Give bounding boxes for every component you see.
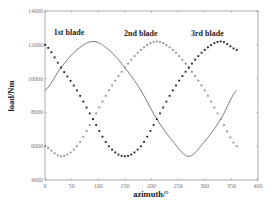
data-point: [166, 101, 168, 103]
data-point: [229, 137, 231, 139]
data-point: [130, 59, 132, 61]
data-point: [47, 47, 49, 49]
data-point: [146, 44, 148, 46]
data-point: [108, 90, 110, 92]
data-point: [162, 107, 164, 109]
data-point: [229, 45, 231, 47]
data-point: [194, 59, 196, 61]
data-point: [105, 95, 107, 97]
data-point: [92, 118, 94, 120]
data-point: [197, 55, 199, 57]
data-point: [54, 56, 56, 58]
data-point: [111, 85, 113, 87]
data-point: [137, 149, 139, 151]
data-point: [166, 44, 168, 46]
data-point: [76, 90, 78, 92]
series-dots-3: [44, 41, 238, 158]
data-point: [217, 41, 219, 43]
data-point: [134, 152, 136, 154]
x-tick-label: 400: [254, 183, 263, 189]
data-point: [204, 49, 206, 51]
data-point: [60, 67, 62, 69]
data-point: [201, 52, 203, 54]
data-point: [70, 152, 72, 154]
y-tick-label: 8000: [31, 109, 43, 115]
data-point: [86, 107, 88, 109]
annotation-label: 1st blade: [54, 28, 85, 37]
x-tick-label: 250: [174, 183, 183, 189]
x-tick-label: 100: [94, 183, 103, 189]
x-tick-label: 350: [227, 183, 236, 189]
data-point: [194, 75, 196, 77]
data-point: [121, 71, 123, 73]
data-point: [95, 113, 97, 115]
data-point: [172, 49, 174, 51]
data-point: [76, 145, 78, 147]
data-point: [181, 59, 183, 61]
data-point: [210, 44, 212, 46]
data-point: [105, 141, 107, 143]
data-point: [89, 113, 91, 115]
data-point: [127, 155, 129, 157]
data-point: [213, 42, 215, 44]
data-point: [47, 147, 49, 149]
x-tick-label: 0: [44, 183, 47, 189]
data-point: [178, 80, 180, 82]
data-point: [102, 101, 104, 103]
annotation-label: 2nd blade: [124, 29, 158, 38]
data-point: [66, 154, 68, 156]
data-point: [159, 113, 161, 115]
x-axis-title: azimuth/°: [133, 189, 169, 199]
data-point: [233, 48, 235, 50]
data-point: [175, 85, 177, 87]
y-tick-label: 12000: [28, 42, 43, 48]
data-point: [79, 95, 81, 97]
data-point: [127, 63, 129, 65]
data-point: [153, 124, 155, 126]
y-axis-title: load/Nm: [6, 80, 16, 111]
data-point: [207, 95, 209, 97]
y-tick-label: 10000: [28, 76, 43, 82]
data-point: [98, 107, 100, 109]
data-point: [156, 41, 158, 43]
data-point: [220, 41, 222, 43]
data-point: [191, 71, 193, 73]
data-point: [86, 130, 88, 132]
data-point: [236, 145, 238, 147]
y-tick-label: 6000: [31, 143, 43, 149]
y-tick-label: 4000: [31, 177, 43, 183]
data-point: [95, 124, 97, 126]
data-point: [102, 136, 104, 138]
data-point: [60, 155, 62, 157]
data-point: [185, 71, 187, 73]
data-point: [57, 62, 59, 64]
x-tick-label: 50: [69, 183, 75, 189]
data-point: [50, 51, 52, 53]
data-point: [233, 142, 235, 144]
data-point: [210, 101, 212, 103]
x-axis-ticks: 050100150200250300350400: [44, 11, 263, 189]
annotations: 1st blade2nd blade3rd blade: [54, 28, 224, 38]
data-point: [153, 41, 155, 43]
data-point: [236, 49, 238, 51]
data-point: [82, 101, 84, 103]
data-point: [44, 44, 46, 46]
data-point: [82, 136, 84, 138]
data-point: [130, 154, 132, 156]
chart: 400060008000100001200014000 050100150200…: [0, 0, 275, 210]
data-point: [89, 124, 91, 126]
data-point: [124, 155, 126, 157]
data-point: [54, 152, 56, 154]
data-point: [185, 63, 187, 65]
data-point: [204, 90, 206, 92]
data-point: [63, 155, 65, 157]
data-point: [63, 71, 65, 73]
data-point: [175, 52, 177, 54]
data-point: [118, 75, 120, 77]
data-point: [220, 118, 222, 120]
data-point: [156, 118, 158, 120]
data-point: [44, 145, 46, 147]
data-point: [201, 85, 203, 87]
data-point: [169, 46, 171, 48]
data-point: [223, 124, 225, 126]
